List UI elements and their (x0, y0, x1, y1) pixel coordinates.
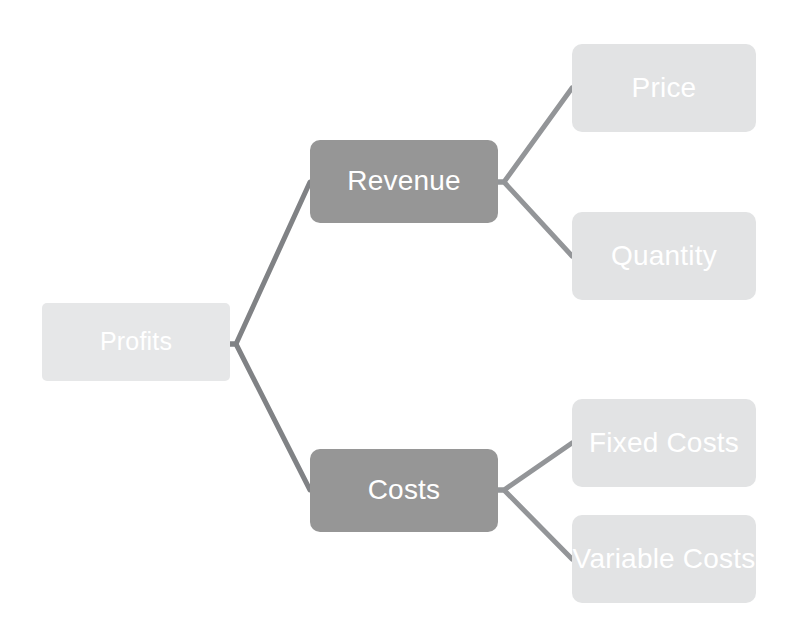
node-revenue[interactable]: Revenue (310, 140, 498, 223)
edge-revenue-price (498, 88, 572, 182)
edge-costs-fixed-costs (498, 443, 572, 490)
node-costs[interactable]: Costs (310, 449, 498, 532)
edge-costs-variable-costs (498, 490, 572, 559)
edge-revenue-quantity (498, 182, 572, 256)
node-revenue-label: Revenue (347, 166, 460, 197)
node-variable-costs-label: Variable Costs (573, 544, 756, 575)
node-profits-label: Profits (100, 328, 172, 356)
edge-profits-costs (230, 344, 310, 490)
node-fixed-costs-label: Fixed Costs (589, 428, 739, 459)
node-fixed-costs[interactable]: Fixed Costs (572, 399, 756, 487)
node-variable-costs[interactable]: Variable Costs (572, 515, 756, 603)
node-profits[interactable]: Profits (42, 303, 230, 381)
node-quantity-label: Quantity (611, 241, 717, 272)
edge-profits-revenue (230, 182, 310, 344)
node-quantity[interactable]: Quantity (572, 212, 756, 300)
diagram-canvas: Profits Revenue Costs Price Quantity Fix… (0, 0, 793, 635)
node-costs-label: Costs (368, 475, 441, 506)
node-price-label: Price (632, 73, 697, 104)
node-price[interactable]: Price (572, 44, 756, 132)
